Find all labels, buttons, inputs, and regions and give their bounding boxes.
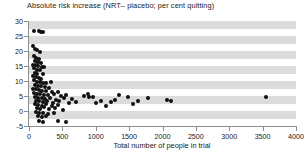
scatter-plot-figure: Absolute risk increase (NRT– placebo; pe…	[0, 0, 308, 151]
data-point	[136, 99, 140, 103]
data-point	[99, 99, 103, 103]
x-axis-tick-label: 3000	[221, 132, 237, 141]
data-point	[44, 114, 48, 118]
chart-title: Absolute risk increase (NRT– placebo; pe…	[27, 1, 214, 10]
data-point	[41, 30, 45, 34]
y-axis-tick-label: 10	[15, 77, 23, 86]
background-band	[29, 21, 296, 29]
y-axis-tick	[24, 21, 28, 22]
y-axis-tick	[24, 126, 28, 127]
y-axis-tick	[24, 66, 28, 67]
x-axis-tick	[196, 127, 197, 131]
x-axis-tick	[296, 127, 297, 131]
x-axis-tick-label: 0	[27, 132, 31, 141]
data-point	[52, 92, 56, 96]
y-axis-tick	[24, 36, 28, 37]
x-axis-tick-label: 4000	[288, 132, 304, 141]
x-axis-title: Total number of people in trial	[114, 141, 211, 150]
x-axis-tick	[129, 127, 130, 131]
data-point	[61, 108, 65, 112]
data-point	[113, 98, 117, 102]
x-axis-tick-label: 500	[56, 132, 68, 141]
x-axis-tick	[163, 127, 164, 131]
data-point	[62, 96, 66, 100]
y-axis-tick-label: 25	[15, 32, 23, 41]
data-point	[74, 100, 78, 104]
background-band	[29, 111, 296, 119]
data-point	[56, 119, 60, 123]
data-point	[67, 101, 71, 105]
data-point	[42, 105, 46, 109]
data-point	[117, 93, 121, 97]
data-point	[32, 29, 36, 33]
x-axis-tick	[29, 127, 30, 131]
y-axis-tick-label: 30	[15, 17, 23, 26]
y-axis-tick-label: 0	[19, 107, 23, 116]
x-axis-tick-label: 3500	[255, 132, 271, 141]
x-axis-tick	[229, 127, 230, 131]
data-point	[41, 120, 45, 124]
y-axis-tick-label: -5	[17, 122, 23, 131]
data-point	[49, 80, 53, 84]
data-point	[146, 96, 150, 100]
y-axis-tick	[24, 111, 28, 112]
data-point	[42, 65, 46, 69]
data-point	[94, 101, 98, 105]
y-axis-tick	[24, 81, 28, 82]
data-point	[38, 50, 42, 54]
x-axis-tick-label: 1000	[88, 132, 104, 141]
data-point	[131, 102, 135, 106]
data-point	[169, 99, 173, 103]
data-point	[64, 120, 68, 124]
background-band	[29, 81, 296, 89]
background-band	[29, 36, 296, 44]
plot-area	[29, 21, 296, 126]
x-axis-tick	[96, 127, 97, 131]
x-axis-tick-label: 1500	[121, 132, 137, 141]
data-point	[52, 111, 56, 115]
y-axis-tick-label: 15	[15, 62, 23, 71]
x-axis-tick	[263, 127, 264, 131]
x-axis-tick-label: 2000	[155, 132, 171, 141]
y-axis-tick-label: 20	[15, 47, 23, 56]
y-axis-line	[28, 21, 29, 126]
data-point	[91, 95, 95, 99]
y-axis-tick	[24, 96, 28, 97]
data-point	[104, 104, 108, 108]
data-point	[47, 107, 51, 111]
background-band	[29, 66, 296, 74]
x-axis-tick-label: 2500	[188, 132, 204, 141]
data-point	[53, 106, 57, 110]
x-axis-tick	[62, 127, 63, 131]
data-point	[264, 95, 268, 99]
data-point	[126, 95, 130, 99]
y-axis-tick-label: 5	[19, 92, 23, 101]
y-axis-tick	[24, 51, 28, 52]
background-band	[29, 51, 296, 59]
